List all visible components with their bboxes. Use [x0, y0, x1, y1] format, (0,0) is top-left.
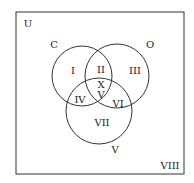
region-v: V: [97, 90, 104, 100]
set-label-c: C: [50, 40, 58, 50]
region-vi: VI: [112, 99, 123, 109]
region-iii: III: [129, 66, 141, 76]
region-i: I: [71, 66, 75, 76]
set-label-v: V: [111, 145, 118, 155]
region-vii: VII: [94, 118, 109, 128]
set-label-o: O: [146, 40, 154, 50]
universe-label: U: [24, 19, 32, 29]
region-viii: VIII: [160, 161, 179, 171]
region-ii: II: [97, 65, 105, 75]
region-iv: IV: [74, 95, 85, 105]
